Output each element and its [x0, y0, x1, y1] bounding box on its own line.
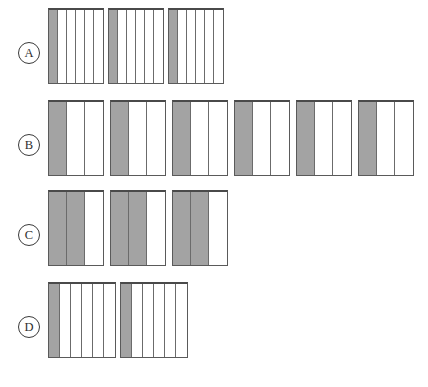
stripe-filled	[121, 284, 132, 357]
stripe-group	[120, 282, 188, 358]
stripe-empty	[165, 284, 176, 357]
diagram-row-a: A	[0, 8, 428, 98]
groups-strip-a	[48, 8, 224, 84]
stripe-group	[296, 100, 352, 176]
stripe-empty	[154, 284, 165, 357]
stripe-empty	[85, 192, 103, 265]
stripe-filled	[49, 102, 67, 175]
stripe-empty	[94, 10, 103, 83]
stripe-empty	[82, 284, 93, 357]
stripe-empty	[209, 102, 227, 175]
row-label-c: C	[18, 224, 40, 246]
stripe-filled	[359, 102, 377, 175]
stripe-empty	[76, 10, 85, 83]
stripe-filled	[67, 192, 85, 265]
stripe-empty	[253, 102, 271, 175]
stripe-filled	[109, 10, 118, 83]
stripe-empty	[147, 192, 165, 265]
stripe-empty	[178, 10, 187, 83]
stripe-empty	[67, 10, 76, 83]
stripe-group	[48, 100, 104, 176]
diagram-row-d: D	[0, 282, 428, 372]
stripe-group	[358, 100, 414, 176]
stripe-filled	[49, 10, 58, 83]
stripe-group	[110, 100, 166, 176]
stripe-empty	[187, 10, 196, 83]
stripe-filled	[49, 192, 67, 265]
stripe-empty	[132, 284, 143, 357]
stripe-empty	[147, 102, 165, 175]
stripe-filled	[111, 102, 129, 175]
stripe-filled	[111, 192, 129, 265]
stripe-group	[168, 8, 224, 84]
stripe-empty	[209, 192, 227, 265]
stripe-empty	[333, 102, 351, 175]
stripe-filled	[235, 102, 253, 175]
stripe-empty	[136, 10, 145, 83]
stripe-empty	[129, 102, 147, 175]
stripe-empty	[205, 10, 214, 83]
stripe-group	[108, 8, 164, 84]
stripe-empty	[196, 10, 205, 83]
stripe-empty	[143, 284, 154, 357]
stripe-empty	[176, 284, 187, 357]
diagram-row-c: C	[0, 190, 428, 280]
stripe-filled	[173, 192, 191, 265]
stripe-group	[48, 190, 104, 266]
stripe-filled	[173, 102, 191, 175]
stripe-empty	[271, 102, 289, 175]
diagram-row-b: B	[0, 100, 428, 190]
groups-strip-c	[48, 190, 228, 266]
stripe-group	[172, 190, 228, 266]
groups-strip-b	[48, 100, 414, 176]
stripe-empty	[85, 102, 103, 175]
stripe-empty	[60, 284, 71, 357]
stripe-filled	[129, 192, 147, 265]
stripe-group	[172, 100, 228, 176]
stripe-empty	[395, 102, 413, 175]
stripe-filled	[297, 102, 315, 175]
stripe-group	[48, 8, 104, 84]
stripe-empty	[118, 10, 127, 83]
stripe-filled	[169, 10, 178, 83]
stripe-group	[48, 282, 116, 358]
stripe-group	[110, 190, 166, 266]
row-label-d: D	[18, 316, 40, 338]
stripe-empty	[145, 10, 154, 83]
stripe-filled	[49, 284, 60, 357]
stripe-empty	[58, 10, 67, 83]
stripe-empty	[315, 102, 333, 175]
stripe-empty	[127, 10, 136, 83]
stripe-empty	[67, 102, 85, 175]
row-label-a: A	[18, 42, 40, 64]
groups-strip-d	[48, 282, 188, 358]
stripe-empty	[104, 284, 115, 357]
stripe-empty	[154, 10, 163, 83]
stripe-empty	[191, 102, 209, 175]
stripe-group	[234, 100, 290, 176]
stripe-filled	[191, 192, 209, 265]
stripe-empty	[214, 10, 223, 83]
row-label-b: B	[18, 134, 40, 156]
stripe-empty	[71, 284, 82, 357]
diagram-canvas: ABCD	[0, 0, 428, 387]
stripe-empty	[377, 102, 395, 175]
stripe-empty	[85, 10, 94, 83]
stripe-empty	[93, 284, 104, 357]
